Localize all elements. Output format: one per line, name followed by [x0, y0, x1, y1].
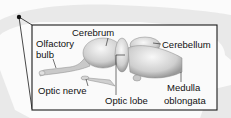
label-cerebrum: Cerebrum: [72, 28, 114, 38]
label-optic-lobe: Optic lobe: [105, 96, 148, 106]
label-olfactory-bulb-line1: Olfactory: [36, 39, 74, 49]
pointer-callout: [19, 17, 32, 109]
label-cerebellum: Cerebellum: [162, 40, 211, 50]
label-medulla-line2: oblongata: [164, 96, 206, 106]
pointer-dot: [17, 15, 21, 19]
label-medulla-line1: Medulla: [167, 83, 200, 93]
label-olfactory-bulb-line2: bulb: [36, 50, 54, 60]
label-optic-nerve: Optic nerve: [38, 86, 87, 96]
